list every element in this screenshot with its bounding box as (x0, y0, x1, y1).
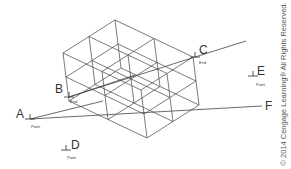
tag-e: Point (256, 83, 265, 87)
tag-d: Point (67, 156, 76, 160)
box-edge (89, 20, 115, 37)
tag-c: End (199, 61, 206, 65)
box-edge (108, 103, 134, 120)
box-edge (131, 79, 134, 103)
box-edge (128, 55, 131, 79)
label-b: B (55, 83, 63, 95)
box-edge (128, 39, 154, 56)
box-edge (134, 87, 160, 104)
box-edge (115, 20, 118, 44)
construction-line (30, 106, 262, 119)
box-edge (196, 81, 199, 105)
tag-b: End (70, 100, 77, 104)
box-edge (131, 63, 157, 80)
box-edge (170, 81, 196, 98)
box-edge (102, 72, 105, 96)
box-edge (66, 61, 92, 78)
box-edge (92, 44, 118, 61)
box-edge (173, 105, 199, 122)
box-edge (170, 98, 173, 122)
label-f: F (265, 100, 272, 112)
box-edge (118, 44, 121, 68)
box-edge (89, 37, 92, 61)
construction-line (30, 101, 103, 119)
box-edge (102, 55, 128, 72)
box-edge (141, 74, 167, 91)
label-c: C (199, 44, 208, 56)
label-d: D (71, 139, 80, 151)
box-edge (115, 20, 154, 39)
box-edge (157, 63, 160, 87)
box-edge (144, 114, 147, 138)
tag-a: Point (31, 125, 40, 129)
box-edge (63, 53, 66, 77)
box-edge (141, 90, 144, 114)
box-edge (105, 96, 108, 120)
box-edge (154, 39, 193, 58)
box-edge (167, 74, 170, 98)
box-edge (63, 37, 89, 54)
box-edge (193, 57, 196, 81)
box-edge (92, 61, 95, 85)
label-a: A (16, 108, 24, 120)
box-edge (147, 122, 173, 139)
box-edge (167, 57, 193, 74)
label-e: E (257, 65, 265, 77)
copyright-notice: © 2014 Cengage Learning® All Rights Rese… (279, 2, 288, 165)
box-edge (154, 39, 157, 63)
wireframe-box (0, 0, 291, 169)
box-edge (108, 120, 147, 139)
diagram-canvas: A Point B End C End D Point E Point F © … (0, 0, 291, 169)
